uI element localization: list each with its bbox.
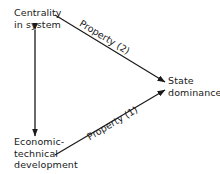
node-label-line: dominance <box>168 87 220 99</box>
edge-label-property-2: Property (2) <box>78 18 132 57</box>
node-centrality-in-system: Centrality in system <box>14 7 62 30</box>
node-label-line: Economic- <box>14 136 78 148</box>
node-label-line: development <box>14 159 78 171</box>
node-label-line: technical <box>14 148 78 160</box>
node-label-line: in system <box>14 19 62 31</box>
edge-label-property-1: Property (1) <box>85 104 139 142</box>
node-state-dominance: State dominance <box>168 75 220 98</box>
edge-property-2: Property (2) <box>55 15 165 82</box>
node-label-line: State <box>168 75 220 87</box>
node-label-line: Centrality <box>14 7 62 19</box>
arrow-line-property-2 <box>55 15 165 82</box>
node-economic-technical-development: Economic- technical development <box>14 136 78 171</box>
